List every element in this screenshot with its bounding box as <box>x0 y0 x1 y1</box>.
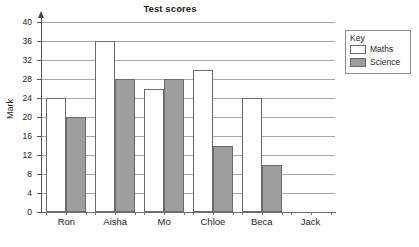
bar-chart: Test scores Mark 0481216202428323640 Ron… <box>0 0 419 247</box>
bar-mo-science <box>164 79 184 212</box>
y-tick-label: 28 <box>8 75 32 84</box>
y-tick-label: 8 <box>8 170 32 179</box>
bar-mo-maths <box>144 89 164 213</box>
bar-beca-science <box>262 165 282 213</box>
x-tick-mark <box>262 212 263 215</box>
x-category-label-jack: Jack <box>286 216 335 227</box>
x-tick-mark <box>282 212 283 215</box>
x-category-label-chloe: Chloe <box>189 216 238 227</box>
bar-ron-maths <box>46 98 66 212</box>
y-tick-label: 16 <box>8 132 32 141</box>
gridline <box>42 98 335 99</box>
legend-key-box: Key MathsScience <box>345 30 411 74</box>
bar-ron-science <box>66 117 86 212</box>
x-tick-mark <box>311 212 312 215</box>
x-tick-mark <box>242 212 243 215</box>
x-tick-mark <box>184 212 185 215</box>
y-tick-label: 0 <box>8 208 32 217</box>
x-tick-mark <box>86 212 87 215</box>
x-tick-mark <box>46 212 47 215</box>
y-tick-label: 32 <box>8 56 32 65</box>
y-tick-label: 4 <box>8 189 32 198</box>
bar-aisha-maths <box>95 41 115 212</box>
y-tick-label: 36 <box>8 37 32 46</box>
y-tick-label: 24 <box>8 94 32 103</box>
y-tick-label: 12 <box>8 151 32 160</box>
plot-area <box>42 22 335 212</box>
y-axis-title: Mark <box>5 83 15 135</box>
bar-aisha-science <box>115 79 135 212</box>
x-category-label-aisha: Aisha <box>91 216 140 227</box>
legend-label-science: Science <box>370 57 400 67</box>
legend-title: Key <box>350 33 365 43</box>
gridline <box>42 22 335 23</box>
y-tick-label: 40 <box>8 18 32 27</box>
x-category-label-beca: Beca <box>237 216 286 227</box>
x-tick-mark <box>331 212 332 215</box>
x-tick-mark <box>135 212 136 215</box>
legend-label-maths: Maths <box>370 44 393 54</box>
x-tick-mark <box>233 212 234 215</box>
gridline <box>42 79 335 80</box>
gridline <box>42 41 335 42</box>
x-tick-mark <box>115 212 116 215</box>
x-tick-mark <box>213 212 214 215</box>
x-category-label-mo: Mo <box>140 216 189 227</box>
x-category-label-ron: Ron <box>42 216 91 227</box>
chart-title: Test scores <box>0 3 340 14</box>
x-tick-mark <box>291 212 292 215</box>
legend-swatch-science <box>350 58 366 67</box>
x-tick-mark <box>164 212 165 215</box>
x-tick-mark <box>144 212 145 215</box>
bar-chloe-science <box>213 146 233 213</box>
x-tick-mark <box>66 212 67 215</box>
bar-beca-maths <box>242 98 262 212</box>
gridline <box>42 60 335 61</box>
x-tick-mark <box>193 212 194 215</box>
x-tick-mark <box>95 212 96 215</box>
bar-chloe-maths <box>193 70 213 213</box>
y-tick-label: 20 <box>8 113 32 122</box>
legend-swatch-maths <box>350 45 366 54</box>
